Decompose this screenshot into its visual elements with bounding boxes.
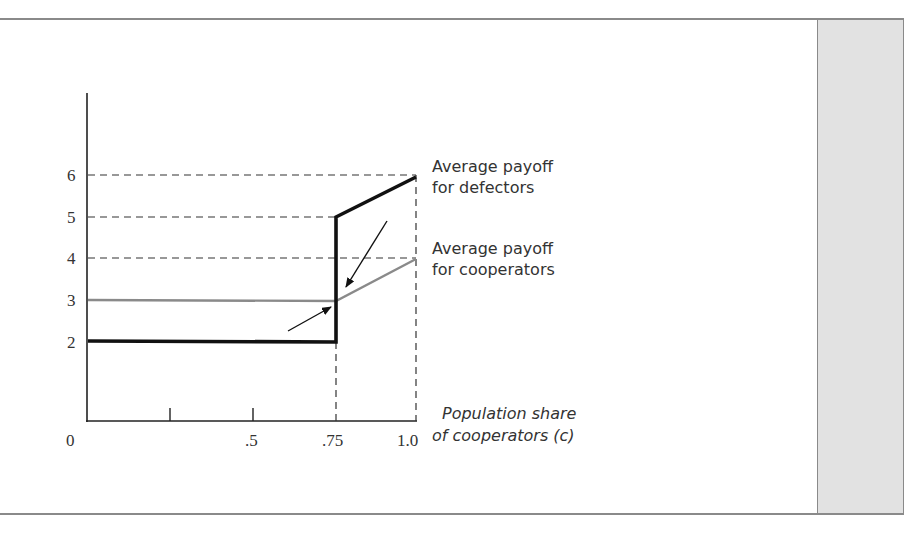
y-tick-label-6: 6: [67, 166, 76, 185]
arrow-up-icon: [288, 307, 331, 331]
series-defectors: [88, 177, 416, 342]
x-tick-label-half: .5: [245, 431, 258, 450]
legend-defectors-line2: for defectors: [432, 178, 534, 197]
y-tick-label-2: 2: [67, 333, 76, 352]
payoff-chart: 6 5 4 3 2 0 .5 .75 1.0 Average payoff fo…: [0, 0, 920, 541]
x-tick-label-1: 1.0: [397, 431, 418, 450]
reference-lines: [88, 175, 416, 421]
legend-defectors-line1: Average payoff: [432, 157, 554, 176]
x-axis-title-line1: Population share: [442, 404, 577, 423]
x-tick-label-075: .75: [322, 431, 343, 450]
x-axis-title-line2: of cooperators (c): [432, 426, 575, 445]
y-tick-label-5: 5: [67, 208, 76, 227]
y-tick-label-4: 4: [67, 249, 76, 268]
series-cooperators: [88, 259, 416, 301]
legend-cooperators-line2: for cooperators: [432, 260, 555, 279]
legend-cooperators-line1: Average payoff: [432, 239, 554, 258]
x-tick-label-0: 0: [66, 431, 75, 450]
y-tick-label-3: 3: [67, 291, 76, 310]
